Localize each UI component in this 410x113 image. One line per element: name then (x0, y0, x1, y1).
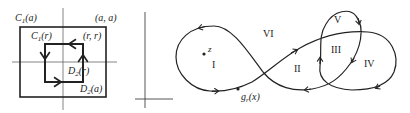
diagram-canvas (0, 0, 410, 113)
label-z: z (208, 45, 212, 54)
label-c1r: C1(r) (31, 31, 52, 43)
label-g: gr(x) (241, 92, 260, 104)
label-aa: (a, a) (95, 13, 117, 23)
label-d2r: D2(r) (68, 66, 89, 78)
middle-axes (135, 12, 173, 108)
label-rr: (r, r) (83, 31, 101, 41)
region-I: I (212, 60, 215, 70)
region-III: III (331, 45, 341, 55)
region-IV: IV (364, 59, 375, 69)
point-z (202, 52, 205, 55)
label-c1a: C1(a) (15, 13, 37, 25)
region-VI: VI (263, 29, 274, 39)
label-d2a: D2(a) (80, 84, 102, 96)
region-V: V (334, 15, 341, 25)
region-II: II (294, 64, 301, 74)
point-g (236, 87, 239, 90)
